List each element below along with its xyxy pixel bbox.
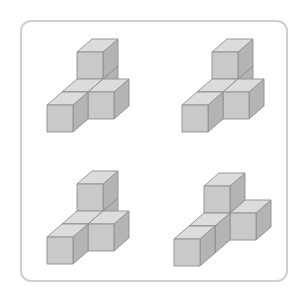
cube-front-face: [77, 52, 103, 79]
figure-top-right: [182, 39, 264, 132]
figure-bottom-right: [174, 173, 271, 266]
cube-front-face: [204, 186, 230, 213]
figure-top-left: [47, 39, 129, 132]
cube-figures-canvas: [0, 0, 308, 300]
cube-front-face: [174, 239, 200, 266]
cube-front-face: [182, 105, 208, 132]
figure-bottom-left: [47, 171, 129, 264]
cube: [47, 224, 88, 264]
cube: [174, 226, 215, 266]
cube-front-face: [212, 52, 238, 79]
cube-front-face: [223, 92, 249, 119]
cube-front-face: [77, 184, 103, 211]
cube: [47, 92, 88, 132]
cube: [182, 92, 223, 132]
cube-front-face: [230, 213, 256, 240]
cube-front-face: [88, 92, 114, 119]
cube-front-face: [47, 237, 73, 264]
cube-front-face: [47, 105, 73, 132]
cube-front-face: [88, 224, 114, 251]
